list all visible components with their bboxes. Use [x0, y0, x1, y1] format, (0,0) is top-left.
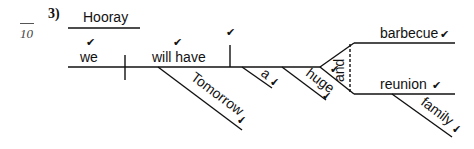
check-icon: ✔: [270, 76, 279, 89]
check-icon: ✔: [226, 26, 235, 39]
check-icon: ✔: [322, 90, 331, 103]
check-icon: ✔: [86, 36, 95, 49]
object-2-text: reunion: [380, 76, 427, 92]
sentence-diagram: Hooray ✔ we ✔ will have ✔ Tomorrow ✔ a ✔…: [0, 0, 474, 149]
check-icon: ✔: [432, 79, 441, 92]
check-icon: ✔: [452, 123, 461, 136]
interjection-text: Hooray: [83, 9, 128, 25]
check-icon: ✔: [330, 63, 339, 76]
verb-text: will have: [151, 49, 206, 65]
object-1-text: barbecue: [380, 25, 439, 41]
check-icon: ✔: [440, 28, 449, 41]
check-icon: ✔: [237, 114, 246, 127]
check-icon: ✔: [173, 36, 182, 49]
subject-text: we: [79, 49, 98, 65]
